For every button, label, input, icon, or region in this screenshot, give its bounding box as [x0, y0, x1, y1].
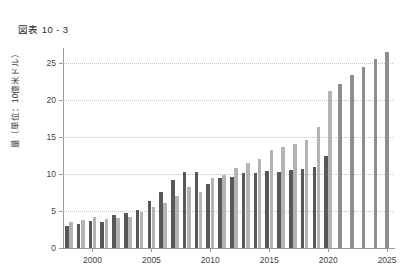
- bar-series2: [293, 144, 297, 248]
- y-tick-mark: [59, 211, 63, 212]
- x-tick-mark: [151, 248, 152, 252]
- bar-series1: [65, 226, 69, 248]
- bar-series1: [289, 170, 293, 248]
- bar-series2: [305, 140, 309, 248]
- bar-series2: [281, 147, 285, 248]
- bar-series2: [69, 222, 73, 248]
- bar-series1: [265, 171, 269, 248]
- x-tick-mark: [387, 248, 388, 252]
- gridline: [63, 100, 393, 101]
- bar-projection: [338, 84, 342, 248]
- bar-projection: [350, 75, 354, 248]
- bar-series1: [195, 172, 199, 248]
- bar-series1: [324, 156, 328, 248]
- bar-series1: [89, 221, 93, 248]
- y-tick-mark: [59, 100, 63, 101]
- gridline: [63, 137, 393, 138]
- bar-series2: [163, 203, 167, 248]
- bar-series1: [148, 201, 152, 248]
- x-tick-mark: [210, 248, 211, 252]
- bar-series1: [124, 213, 128, 248]
- bar-series2: [140, 212, 144, 248]
- bar-series2: [187, 187, 191, 248]
- bar-series2: [116, 218, 120, 248]
- figure-container: 図表 10 - 3 量（単位：10億米ドル） 05101520252000200…: [0, 0, 405, 270]
- y-tick-mark: [59, 174, 63, 175]
- x-tick-label: 2025: [378, 255, 397, 265]
- bar-series1: [254, 173, 258, 248]
- y-tick-mark: [59, 248, 63, 249]
- bar-series2: [317, 127, 321, 248]
- bar-series2: [81, 220, 85, 248]
- figure-title: 図表 10 - 3: [18, 22, 69, 36]
- gridline: [63, 63, 393, 64]
- y-tick-mark: [59, 63, 63, 64]
- x-axis-line: [63, 248, 395, 249]
- y-tick-label: 5: [51, 206, 56, 216]
- bar-series2: [258, 159, 262, 248]
- bar-series2: [175, 196, 179, 248]
- bar-series1: [277, 172, 281, 248]
- bar-series2: [128, 217, 132, 248]
- bar-series2: [105, 219, 109, 248]
- bar-series1: [206, 184, 210, 248]
- bar-series1: [136, 210, 140, 248]
- y-tick-label: 15: [47, 132, 56, 142]
- y-tick-mark: [59, 137, 63, 138]
- bar-projection: [385, 52, 389, 248]
- y-tick-label: 10: [47, 169, 56, 179]
- bar-series2: [222, 175, 226, 248]
- bar-series1: [230, 177, 234, 248]
- x-tick-mark: [92, 248, 93, 252]
- x-tick-label: 2005: [142, 255, 161, 265]
- x-tick-mark: [328, 248, 329, 252]
- bar-series2: [93, 217, 97, 248]
- bar-projection: [374, 59, 378, 248]
- bar-series2: [328, 91, 332, 248]
- bar-series1: [183, 172, 187, 248]
- x-tick-mark: [269, 248, 270, 252]
- bar-series1: [77, 224, 81, 248]
- bar-projection: [362, 67, 366, 248]
- y-axis-title: 量（単位：10億米ドル）: [8, 49, 20, 148]
- bar-series1: [218, 178, 222, 248]
- bar-series2: [270, 150, 274, 248]
- bar-series1: [301, 169, 305, 248]
- bar-series1: [159, 192, 163, 248]
- bar-series1: [242, 173, 246, 248]
- x-tick-label: 2020: [319, 255, 338, 265]
- y-tick-label: 20: [47, 95, 56, 105]
- y-tick-label: 0: [51, 243, 56, 253]
- y-tick-label: 25: [47, 58, 56, 68]
- bar-series1: [112, 215, 116, 248]
- bar-series1: [100, 222, 104, 248]
- bar-series2: [211, 178, 215, 248]
- x-tick-label: 2010: [201, 255, 220, 265]
- gridline: [63, 174, 393, 175]
- gridline: [63, 211, 393, 212]
- bar-series1: [171, 180, 175, 248]
- bar-series2: [199, 192, 203, 248]
- bar-series2: [246, 163, 250, 248]
- x-tick-label: 2000: [83, 255, 102, 265]
- bar-series2: [152, 207, 156, 248]
- plot-area: 0510152025200020052010201520202025: [63, 48, 393, 248]
- bar-series2: [234, 168, 238, 248]
- x-tick-label: 2015: [260, 255, 279, 265]
- bar-series1: [313, 167, 317, 248]
